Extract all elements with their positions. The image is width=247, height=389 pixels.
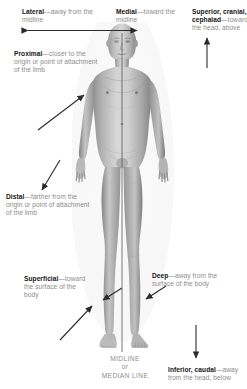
term-superficial: Superficial [24,275,58,282]
callout-superficial: Superficial—toward the surface of the bo… [24,275,86,299]
separator-superior: — [221,16,228,23]
callout-lateral: Lateral—away from the midline [22,8,100,24]
callout-superior: Superior, cranial, cephalad—toward the h… [192,8,247,32]
term-inferior: Inferior, caudal [168,366,216,373]
term-lateral: Lateral [22,8,44,15]
term-proximal: Proximal [14,50,42,57]
midline-label-line3: MEDIAN LINE [92,372,158,380]
callout-inferior: Inferior, caudal—away from the head, bel… [168,366,247,382]
superficial-arrow [60,306,92,340]
term-deep: Deep [152,272,168,279]
superficial-inner-arrow [103,288,122,300]
midline-label-line2: or [92,363,158,371]
callout-medial: Medial—toward the midline [116,8,190,24]
callout-proximal: Proximal—closer to the origin or point o… [14,50,98,74]
callout-deep: Deep—away from the surface of the body [152,272,226,288]
midline-caption: MIDLINE or MEDIAN LINE [92,355,158,380]
diagram-canvas: Lateral—away from the midline Medial—tow… [0,0,247,389]
proximal-arrow [38,95,84,130]
separator-proximal: — [42,50,49,57]
separator-inferior: — [216,366,223,373]
term-distal: Distal [6,193,24,200]
term-medial: Medial [116,8,137,15]
separator-lateral: — [44,8,51,15]
callout-distal: Distal—farther from the origin or point … [6,193,92,217]
midline-label-line1: MIDLINE [92,355,158,363]
distal-arrow [42,160,60,190]
separator-medial: — [137,8,144,15]
separator-distal: — [24,193,31,200]
